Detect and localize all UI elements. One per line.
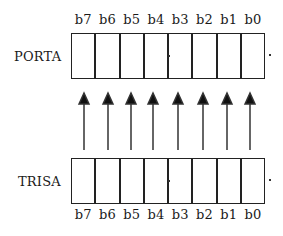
arrow-up-icon xyxy=(103,93,113,150)
bit-label: b4 xyxy=(144,207,168,222)
trisa-bit-cell xyxy=(72,159,96,203)
bit-label: b0 xyxy=(241,207,265,222)
trisa-bit-labels: b7 b6 b5 b4 b3 b2 b1 b0 xyxy=(71,207,265,222)
bit-label: b5 xyxy=(120,207,144,222)
arrow-up-icon xyxy=(148,93,158,150)
dot-marker xyxy=(269,179,271,181)
trisa-bit-cell xyxy=(193,159,217,203)
bit-label: b7 xyxy=(71,207,95,222)
arrow-up-icon xyxy=(126,93,136,150)
trisa-bit-cell xyxy=(218,159,242,203)
arrow-up-icon xyxy=(245,93,255,150)
arrow-up-icon xyxy=(222,93,232,150)
trisa-bit-cell xyxy=(121,159,145,203)
arrow-up-icon xyxy=(79,93,89,150)
trisa-bit-cell xyxy=(242,159,264,203)
trisa-register xyxy=(71,158,265,204)
arrow-up-icon xyxy=(173,93,183,150)
bit-label: b1 xyxy=(217,207,241,222)
trisa-label: TRISA xyxy=(18,174,61,189)
bit-label: b2 xyxy=(192,207,216,222)
trisa-bit-cell xyxy=(169,159,193,203)
trisa-bit-cell xyxy=(145,159,169,203)
bit-label: b3 xyxy=(168,207,192,222)
bit-label: b6 xyxy=(95,207,119,222)
trisa-bit-cell xyxy=(96,159,120,203)
arrow-up-icon xyxy=(198,93,208,150)
